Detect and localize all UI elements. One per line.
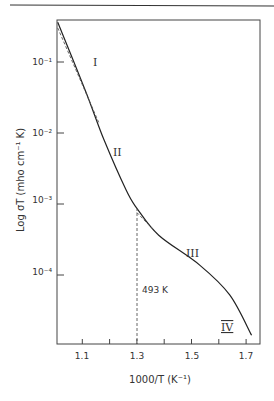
y-ticks [57, 62, 64, 275]
y-tick-label: 10⁻⁴ [32, 267, 52, 277]
extrapolation-line-high [58, 28, 99, 123]
y-tick-label: 10⁻² [32, 128, 52, 138]
extrapolation-line-III [137, 213, 159, 236]
region-label-II: II [113, 146, 122, 159]
top-rule [10, 5, 274, 6]
x-axis-label: 1000/T (K⁻¹) [129, 374, 191, 385]
region-label-I: I [93, 56, 97, 69]
region-label-III: III [186, 247, 199, 260]
x-ticks [82, 339, 246, 344]
x-tick-label: 1.5 [185, 351, 199, 361]
x-tick-label: 1.7 [239, 351, 253, 361]
chart-canvas: 1.1 1.3 1.5 1.7 10⁻¹ 10⁻² 10⁻³ 10⁻⁴ 1000… [0, 0, 274, 401]
x-tick-label: 1.1 [75, 351, 89, 361]
x-tick-label: 1.3 [130, 351, 144, 361]
region-label-IV: IV [221, 321, 234, 334]
y-tick-label: 10⁻¹ [32, 57, 52, 67]
y-axis-label: Log σT (mho cm⁻¹ K) [15, 128, 26, 232]
y-tick-label: 10⁻³ [32, 195, 52, 205]
transition-temp-label: 493 K [142, 285, 169, 295]
